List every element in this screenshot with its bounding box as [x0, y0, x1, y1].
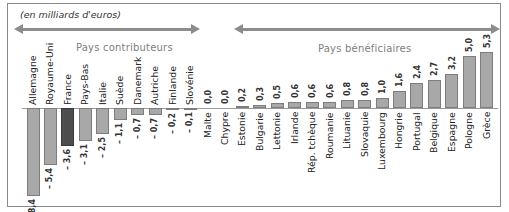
value-label: 0,6 — [326, 84, 336, 98]
unit-label: (en milliards d'euros) — [20, 9, 121, 20]
value-label: 1,6 — [395, 73, 405, 87]
bar — [184, 108, 197, 110]
bar — [393, 91, 406, 108]
contributors-arrow — [22, 28, 192, 31]
value-label: 0,6 — [291, 84, 301, 98]
category-label: Estonie — [237, 112, 247, 146]
value-label: 0,3 — [256, 87, 266, 101]
bar — [306, 102, 319, 108]
category-label: Belgique — [429, 112, 439, 153]
category-label: Rép. tchèque — [307, 112, 317, 173]
group-label-contributors: Pays contributeurs — [76, 42, 173, 53]
bar — [166, 108, 179, 110]
category-label: Slovaquie — [360, 112, 370, 157]
value-label: 0,0 — [221, 90, 231, 104]
value-label: 0,5 — [273, 85, 283, 99]
value-label: – 0,1 — [185, 112, 195, 133]
arrow-left-head-icon — [14, 24, 23, 34]
category-label: Suède — [115, 76, 125, 105]
bar — [149, 108, 162, 115]
category-label: Bulgarie — [255, 112, 265, 151]
bar — [376, 98, 389, 109]
category-label: Espagne — [447, 112, 457, 152]
category-label: Hongrie — [394, 112, 404, 149]
value-label: – 5,4 — [45, 168, 55, 189]
category-label: Pays-Bas — [80, 64, 90, 105]
zero-axis-line — [22, 108, 498, 109]
bar — [288, 102, 301, 108]
value-label: 3,2 — [448, 56, 458, 70]
value-label: 2,7 — [430, 61, 440, 75]
bar — [131, 108, 144, 115]
bar — [44, 108, 57, 165]
bar — [480, 52, 493, 108]
category-label: Finlande — [168, 66, 178, 105]
value-label: 0,8 — [343, 81, 353, 95]
bar — [79, 108, 92, 141]
value-label: – 3,6 — [63, 149, 73, 170]
value-label: – 1,1 — [115, 123, 125, 144]
category-label: France — [63, 74, 73, 105]
category-label: Allemagne — [28, 55, 38, 105]
value-label: 0,8 — [361, 81, 371, 95]
bar — [445, 74, 458, 108]
category-label: Autriche — [150, 66, 160, 105]
category-label: Grèce — [482, 112, 492, 139]
arrow-left-head-icon — [234, 24, 243, 34]
bar — [463, 56, 476, 109]
value-label: 0,0 — [204, 90, 214, 104]
category-label: Malte — [203, 112, 213, 138]
arrow-right-head-icon — [191, 24, 200, 34]
bar — [410, 83, 423, 108]
category-label: Luxembourg — [377, 112, 387, 170]
bar — [428, 80, 441, 108]
category-label: Roumanie — [325, 112, 335, 159]
category-label: Slovénie — [185, 65, 195, 105]
category-label: Chypre — [220, 112, 230, 145]
value-label: – 8,4 — [28, 199, 38, 212]
bar — [323, 102, 336, 108]
value-label: 2,4 — [413, 65, 423, 79]
value-label: – 0,7 — [150, 118, 160, 139]
bar — [96, 108, 109, 134]
category-label: Lettonie — [272, 112, 282, 150]
category-label: Portugal — [412, 112, 422, 151]
category-label: Italie — [98, 82, 108, 105]
value-label: 1,0 — [378, 79, 388, 93]
value-label: 0,6 — [308, 84, 318, 98]
category-label: Irlande — [290, 112, 300, 144]
bar — [271, 103, 284, 108]
beneficiaries-arrow — [242, 28, 492, 31]
value-label: – 3,1 — [80, 144, 90, 165]
value-label: 5,3 — [483, 34, 493, 48]
bar — [114, 108, 127, 120]
category-label: Lituanie — [342, 112, 352, 149]
bar — [61, 108, 74, 146]
bar — [341, 100, 354, 108]
value-label: – 0,2 — [168, 113, 178, 134]
value-label: 0,2 — [238, 88, 248, 102]
value-label: 5,0 — [465, 37, 475, 51]
category-label: Danemark — [133, 57, 143, 105]
category-label: Pologne — [464, 112, 474, 149]
value-label: – 0,7 — [133, 118, 143, 139]
bar — [236, 106, 249, 108]
bar — [358, 100, 371, 108]
category-label: Royaume-Uni — [45, 43, 55, 105]
arrow-right-head-icon — [491, 24, 500, 34]
bar — [27, 108, 40, 196]
group-label-beneficiaries: Pays bénéficiaires — [318, 43, 411, 54]
bar — [253, 105, 266, 108]
value-label: – 2,5 — [98, 137, 108, 158]
